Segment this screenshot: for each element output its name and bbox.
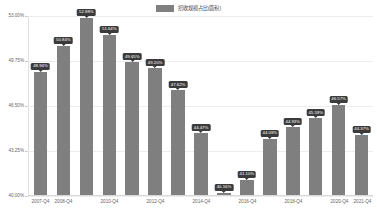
- bar-value-label: 44.09%: [261, 130, 280, 137]
- x-axis-tick-label: 2007-Q4: [29, 198, 52, 210]
- bar[interactable]: 41.10%: [240, 180, 254, 195]
- bar-value-label: 46.57%: [329, 96, 348, 103]
- bar[interactable]: 44.37%: [355, 135, 369, 195]
- bar[interactable]: 40.16%: [217, 193, 231, 195]
- y-axis-tick-label: 40.00%: [8, 193, 24, 199]
- chart-legend: 招收规模占比(面积): [0, 2, 377, 14]
- bar-value-label: 44.47%: [192, 124, 211, 131]
- bar[interactable]: 45.59%: [309, 118, 323, 195]
- bar[interactable]: 47.62%: [171, 90, 185, 195]
- bar-value-label: 51.64%: [100, 26, 119, 33]
- bar-value-label: 52.88%: [77, 9, 96, 16]
- bar-value-label: 47.62%: [169, 81, 188, 88]
- y-axis-tick-mark: [25, 16, 28, 17]
- bar-value-label: 44.93%: [283, 118, 302, 125]
- bar-slot: 44.37%: [350, 16, 373, 195]
- bar-slot: 46.57%: [327, 16, 350, 195]
- bar-slot: 44.47%: [190, 16, 213, 195]
- y-axis-tick-mark: [25, 151, 28, 152]
- x-axis-tick-label-empty: [167, 198, 190, 210]
- x-axis-tick-label: 2010-Q4: [98, 198, 121, 210]
- bar-value-label: 40.16%: [215, 184, 234, 191]
- y-axis-tick-label: 46.50%: [8, 103, 24, 109]
- bar-value-label: 45.59%: [306, 109, 325, 116]
- y-axis-tick-label: 53.00%: [8, 13, 24, 19]
- x-axis-tick-label: 2016-Q4: [236, 198, 259, 210]
- bar-slot: 49.65%: [121, 16, 144, 195]
- x-axis-tick-label: 2012-Q4: [144, 198, 167, 210]
- bar-value-label: 44.37%: [352, 126, 371, 133]
- bar[interactable]: 51.64%: [103, 35, 117, 195]
- y-axis-tick-mark: [25, 61, 28, 62]
- bar-slot: 47.62%: [167, 16, 190, 195]
- x-axis-tick-label: 2008-Q4: [52, 198, 75, 210]
- bar-value-label: 48.94%: [31, 63, 50, 70]
- x-axis-tick-label: 2014-Q4: [190, 198, 213, 210]
- bar[interactable]: 49.20%: [148, 68, 162, 195]
- x-axis-tick-label-empty: [305, 198, 328, 210]
- bar[interactable]: 48.94%: [34, 72, 48, 195]
- bar-value-label: 41.10%: [238, 171, 257, 178]
- bar[interactable]: 44.47%: [194, 133, 208, 195]
- bar-slot: 52.88%: [75, 16, 98, 195]
- bar-slot: 51.64%: [98, 16, 121, 195]
- bar-chart: 招收规模占比(面积) 53.00%49.75%46.50%43.25%40.00…: [0, 0, 377, 219]
- bar-slot: 44.93%: [281, 16, 304, 195]
- bar[interactable]: 50.84%: [57, 46, 71, 195]
- y-axis-tick-label: 43.25%: [8, 148, 24, 154]
- y-axis-tick-mark: [25, 106, 28, 107]
- x-axis-tick-label-empty: [259, 198, 282, 210]
- bar[interactable]: 44.09%: [263, 139, 277, 195]
- x-axis-tick-label-empty: [213, 198, 236, 210]
- bar[interactable]: 44.93%: [286, 127, 300, 195]
- bar-slot: 45.59%: [304, 16, 327, 195]
- bar-slot: 48.94%: [29, 16, 52, 195]
- bar[interactable]: 52.88%: [80, 18, 94, 195]
- bar-slot: 41.10%: [235, 16, 258, 195]
- bar[interactable]: 49.65%: [125, 62, 139, 195]
- plot-area: 53.00%49.75%46.50%43.25%40.00% 48.94%50.…: [28, 16, 373, 196]
- gridline: [28, 196, 373, 197]
- x-axis-tick-label-empty: [75, 198, 98, 210]
- bar-value-label: 49.65%: [123, 53, 142, 60]
- bar-series: 48.94%50.84%52.88%51.64%49.65%49.20%47.6…: [29, 16, 373, 195]
- bar-slot: 40.16%: [213, 16, 236, 195]
- bar-value-label: 50.84%: [54, 37, 73, 44]
- legend-item-label[interactable]: 招收规模占比(面积): [178, 4, 221, 12]
- bar-slot: 44.09%: [258, 16, 281, 195]
- x-axis-labels: 2007-Q42008-Q42010-Q42012-Q42014-Q42016-…: [29, 198, 374, 210]
- x-axis-tick-label: 2020-Q4: [328, 198, 351, 210]
- legend-color-swatch-icon: [156, 5, 174, 12]
- bar[interactable]: 46.57%: [332, 105, 346, 195]
- bar-slot: 49.20%: [144, 16, 167, 195]
- x-axis-tick-label: 2018-Q4: [282, 198, 305, 210]
- bar-value-label: 49.20%: [146, 59, 165, 66]
- y-axis-tick-mark: [25, 196, 28, 197]
- bar-slot: 50.84%: [52, 16, 75, 195]
- x-axis-tick-label: 2021-Q4: [351, 198, 374, 210]
- x-axis-tick-label-empty: [121, 198, 144, 210]
- y-axis-tick-label: 49.75%: [8, 58, 24, 64]
